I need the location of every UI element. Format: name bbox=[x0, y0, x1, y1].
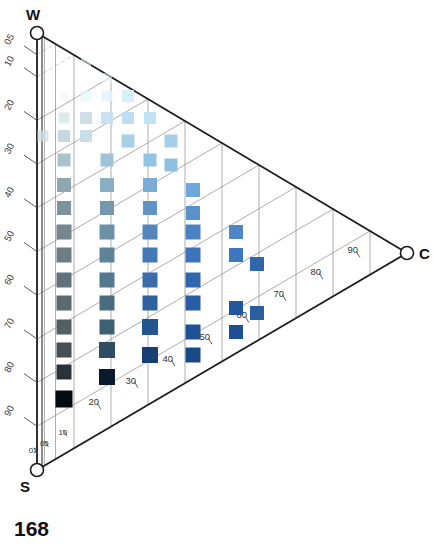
figure-number: 168 bbox=[14, 517, 49, 540]
data-marker bbox=[186, 325, 201, 340]
data-marker bbox=[57, 248, 72, 263]
bottom-tick-label: 40 bbox=[163, 353, 174, 364]
left-tick-label: 60 bbox=[2, 272, 17, 287]
data-marker bbox=[229, 301, 243, 315]
data-marker bbox=[165, 159, 178, 172]
data-markers-group bbox=[38, 57, 265, 408]
left-tick-label: 20 bbox=[2, 98, 17, 113]
bottom-tick-label: 30 bbox=[126, 375, 137, 386]
data-marker bbox=[143, 248, 158, 263]
bottom-tick-label: 05 bbox=[40, 439, 49, 448]
left-tick-label: 10 bbox=[2, 54, 17, 69]
data-marker bbox=[80, 130, 92, 142]
data-marker bbox=[59, 113, 70, 124]
data-marker bbox=[81, 91, 92, 102]
data-marker bbox=[165, 135, 178, 148]
left-tick-label: 50 bbox=[2, 229, 17, 244]
cement-vertex bbox=[401, 247, 414, 260]
vertex-label-w: W bbox=[26, 6, 41, 23]
left-gridlines-group bbox=[37, 77, 370, 426]
data-marker bbox=[186, 348, 201, 363]
data-marker bbox=[250, 257, 264, 271]
data-marker bbox=[143, 178, 157, 192]
data-marker bbox=[102, 73, 112, 83]
data-marker bbox=[57, 343, 72, 358]
data-marker bbox=[122, 135, 135, 148]
bottom-tick-label: 80 bbox=[311, 266, 322, 277]
data-marker bbox=[57, 201, 71, 215]
data-marker bbox=[122, 112, 134, 124]
data-marker bbox=[186, 183, 200, 197]
data-marker bbox=[100, 248, 115, 263]
left-tick-label: 40 bbox=[2, 185, 17, 200]
data-marker bbox=[57, 225, 72, 240]
data-marker bbox=[229, 325, 243, 339]
data-marker bbox=[186, 225, 201, 240]
data-marker bbox=[57, 365, 72, 380]
data-marker bbox=[143, 225, 158, 240]
data-marker bbox=[80, 112, 92, 124]
ternary-diagram-figure: 0205102030405060708090 05102030405060708… bbox=[0, 0, 433, 551]
vertex-label-c: C bbox=[419, 245, 430, 262]
data-marker bbox=[59, 91, 69, 101]
data-marker bbox=[100, 178, 114, 192]
bottom-tick-label: 02 bbox=[29, 446, 38, 455]
data-marker bbox=[142, 347, 158, 363]
data-marker bbox=[186, 296, 201, 311]
bottom-tick-label: 20 bbox=[89, 396, 100, 407]
data-marker bbox=[186, 273, 201, 288]
data-marker bbox=[58, 154, 71, 167]
data-marker bbox=[38, 131, 49, 142]
data-marker bbox=[57, 320, 72, 335]
data-marker bbox=[57, 178, 71, 192]
data-marker bbox=[186, 206, 200, 220]
data-marker bbox=[144, 154, 157, 167]
left-tick-label: 05 bbox=[2, 32, 17, 47]
data-marker bbox=[143, 273, 158, 288]
data-marker bbox=[57, 296, 72, 311]
left-tick-label: 80 bbox=[2, 360, 17, 375]
data-marker bbox=[143, 296, 158, 311]
data-marker bbox=[102, 91, 113, 102]
data-marker bbox=[100, 225, 115, 240]
data-marker bbox=[101, 154, 114, 167]
data-marker bbox=[143, 201, 157, 215]
data-marker bbox=[99, 342, 115, 358]
left-tick-label: 30 bbox=[2, 141, 17, 156]
data-marker bbox=[56, 391, 73, 408]
data-marker bbox=[101, 112, 113, 124]
left-tick-label: 70 bbox=[2, 316, 17, 331]
data-marker bbox=[229, 248, 243, 262]
bottom-tick-label: 50 bbox=[200, 331, 211, 342]
sand-vertex bbox=[31, 464, 44, 477]
data-marker bbox=[57, 273, 72, 288]
data-marker bbox=[122, 90, 134, 102]
data-marker bbox=[250, 306, 264, 320]
data-marker bbox=[100, 296, 115, 311]
bottom-tick-label: 90 bbox=[348, 244, 359, 255]
data-marker bbox=[100, 201, 114, 215]
ternary-plot-canvas: 0205102030405060708090 05102030405060708… bbox=[0, 0, 433, 551]
data-marker bbox=[229, 225, 243, 239]
water-vertex bbox=[31, 27, 44, 40]
data-marker bbox=[99, 369, 115, 385]
vertex-label-s: S bbox=[20, 478, 30, 495]
left-axis-ticks: 05102030405060708090 bbox=[2, 32, 37, 426]
data-marker bbox=[142, 319, 158, 335]
left-tick-label: 90 bbox=[2, 403, 17, 418]
data-marker bbox=[100, 320, 115, 335]
data-marker bbox=[58, 130, 70, 142]
data-marker bbox=[144, 112, 156, 124]
bottom-tick-label: 10 bbox=[58, 428, 67, 437]
data-marker bbox=[100, 273, 115, 288]
data-marker bbox=[81, 57, 91, 67]
data-marker bbox=[186, 248, 201, 263]
bottom-tick-label: 70 bbox=[274, 288, 285, 299]
